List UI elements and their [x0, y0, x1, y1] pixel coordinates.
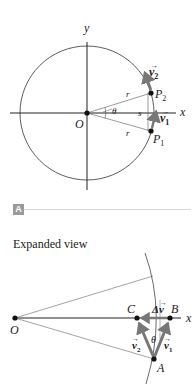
- origin-label: O: [75, 117, 84, 131]
- y-axis-label: y: [83, 21, 90, 35]
- vector-v1-label: v1 →: [160, 107, 169, 127]
- svg-text:→: →: [160, 299, 167, 307]
- angle-label: θ: [112, 106, 117, 116]
- x-axis-label: x: [179, 105, 186, 119]
- figure-canvas: y x θ r r s O P2 P1 v2 → v1 →: [0, 0, 196, 384]
- point-p2-label: P2: [154, 87, 166, 103]
- expanded-x-label: x: [185, 311, 192, 325]
- expanded-view-caption: Expanded view: [13, 237, 87, 252]
- point-b-label: B: [171, 302, 179, 316]
- point-a: [151, 356, 156, 361]
- expanded-angle-label: θ: [151, 334, 156, 345]
- top-diagram: y x θ r r s O P2 P1 v2 → v1 →: [10, 21, 186, 190]
- svg-text:→: →: [132, 335, 139, 343]
- svg-text:→: →: [164, 335, 171, 343]
- expanded-origin-point: [12, 315, 17, 320]
- radius-label-bottom: r: [126, 128, 130, 138]
- svg-text:→: →: [161, 107, 169, 116]
- point-b: [167, 315, 172, 320]
- arc-length-label: s: [138, 108, 142, 118]
- vector-v2-label: v2 →: [149, 61, 158, 81]
- radius-label-top: r: [126, 89, 130, 99]
- vector-v1-label: v1 →: [164, 335, 173, 354]
- point-c-label: C: [127, 302, 136, 316]
- expanded-diagram: x O C B A Δv → v2 → θ v1 →: [10, 253, 192, 384]
- origin-point: [84, 110, 89, 115]
- point-a-label: A: [156, 361, 165, 375]
- expanded-origin-label: O: [10, 323, 19, 337]
- point-p1-label: P1: [152, 132, 164, 148]
- panel-badge: A: [13, 204, 24, 215]
- delta-v-label: Δv →: [151, 299, 167, 315]
- vector-v2-label: v2 →: [132, 335, 141, 354]
- angle-pointer: [103, 109, 112, 112]
- point-c: [134, 315, 139, 320]
- panel-divider: [13, 209, 191, 210]
- point-p2: [148, 90, 153, 95]
- svg-text:→: →: [150, 61, 158, 70]
